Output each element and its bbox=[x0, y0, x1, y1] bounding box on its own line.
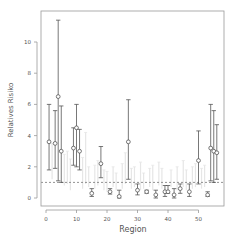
faint-interval bbox=[84, 132, 87, 183]
faint-interval bbox=[148, 168, 151, 187]
point-marker bbox=[209, 146, 213, 150]
faint-interval bbox=[142, 173, 145, 189]
data-point bbox=[108, 189, 112, 194]
x-tick-label: 30 bbox=[134, 216, 141, 222]
faint-interval bbox=[102, 170, 105, 190]
data-point bbox=[77, 129, 81, 170]
y-tick-label: 4 bbox=[28, 133, 32, 139]
faint-interval bbox=[203, 165, 206, 187]
x-tick-label: 40 bbox=[165, 216, 172, 222]
y-tick-label: 0 bbox=[28, 195, 32, 201]
data-point bbox=[53, 111, 57, 169]
data-point bbox=[99, 147, 103, 178]
data-point bbox=[90, 189, 94, 197]
point-marker bbox=[215, 151, 219, 155]
point-marker bbox=[78, 149, 82, 153]
plot-frame bbox=[41, 11, 224, 206]
point-marker bbox=[206, 193, 210, 197]
point-marker bbox=[53, 142, 57, 146]
faint-interval bbox=[51, 143, 54, 179]
x-axis-label: Region bbox=[119, 225, 146, 234]
data-point bbox=[166, 186, 170, 194]
data-point bbox=[59, 106, 63, 182]
data-point bbox=[144, 190, 148, 194]
data-point bbox=[178, 184, 182, 193]
point-marker bbox=[136, 188, 140, 192]
point-marker bbox=[197, 159, 201, 163]
point-marker bbox=[172, 193, 176, 197]
point-marker bbox=[166, 190, 170, 194]
y-tick-label: 2 bbox=[28, 164, 32, 170]
data-point bbox=[187, 184, 191, 196]
x-tick-label: 10 bbox=[73, 216, 80, 222]
data-point bbox=[154, 190, 158, 198]
data-point bbox=[215, 125, 219, 180]
point-marker bbox=[90, 191, 94, 195]
point-marker bbox=[56, 95, 60, 99]
data-point bbox=[47, 104, 51, 170]
point-marker bbox=[47, 140, 51, 144]
y-tick-label: 8 bbox=[28, 70, 32, 76]
faint-interval bbox=[191, 167, 194, 189]
data-point bbox=[135, 184, 139, 195]
faint-interval bbox=[93, 165, 96, 188]
faint-interval bbox=[185, 170, 188, 190]
data-point bbox=[172, 189, 176, 198]
y-tick-label: 6 bbox=[28, 101, 32, 107]
faint-interval bbox=[87, 167, 90, 187]
point-marker bbox=[178, 187, 182, 191]
data-point bbox=[56, 20, 60, 181]
point-marker bbox=[126, 140, 130, 144]
data-point bbox=[205, 192, 209, 197]
data-point bbox=[126, 100, 130, 180]
faint-interval bbox=[139, 162, 142, 190]
data-point bbox=[209, 104, 213, 180]
data-point bbox=[117, 190, 121, 198]
faint-interval bbox=[81, 157, 84, 188]
x-axis: 01020304050 bbox=[44, 210, 202, 222]
point-marker bbox=[59, 149, 63, 153]
x-tick-label: 20 bbox=[104, 216, 111, 222]
faint-interval bbox=[170, 170, 173, 187]
data-point bbox=[71, 128, 75, 165]
x-tick-label: 0 bbox=[44, 216, 48, 222]
point-marker bbox=[145, 190, 149, 194]
point-marker bbox=[154, 193, 158, 197]
faint-interval bbox=[63, 154, 66, 185]
significant-intervals bbox=[47, 20, 219, 198]
faint-interval bbox=[130, 168, 133, 188]
point-marker bbox=[187, 190, 191, 194]
faint-interval bbox=[69, 159, 72, 190]
data-point bbox=[196, 131, 200, 184]
faint-interval bbox=[182, 161, 185, 188]
y-axis-label: Relatives Risiko bbox=[7, 83, 15, 138]
point-marker bbox=[72, 146, 76, 150]
point-marker bbox=[108, 190, 112, 194]
data-point bbox=[74, 104, 78, 166]
risk-interval-chart: 01020304050 0246810 Region Relatives Ris… bbox=[0, 0, 233, 244]
faint-interval bbox=[121, 164, 124, 189]
point-marker bbox=[99, 162, 103, 166]
x-tick-label: 50 bbox=[195, 216, 202, 222]
faint-interval bbox=[151, 165, 154, 190]
faint-interval bbox=[176, 167, 179, 190]
faint-interval bbox=[200, 168, 203, 188]
faint-interval bbox=[66, 151, 69, 184]
point-marker bbox=[117, 195, 121, 199]
y-axis: 0246810 bbox=[24, 39, 37, 201]
y-tick-label: 10 bbox=[24, 39, 31, 45]
faint-interval bbox=[112, 167, 115, 187]
faint-interval bbox=[115, 173, 118, 190]
